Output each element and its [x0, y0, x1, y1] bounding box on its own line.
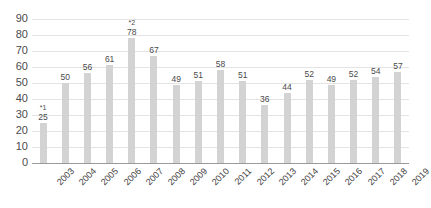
x-axis-tick-label: 2014: [299, 166, 320, 187]
y-axis-tick-label: 10: [2, 140, 28, 152]
x-axis-tick-label: 2019: [410, 166, 431, 187]
bar-footnote-marker: *2: [121, 19, 143, 26]
y-axis-tick-label: 30: [2, 108, 28, 120]
x-axis-tick-label: 2013: [277, 166, 298, 187]
bar-value-label: 58: [210, 59, 232, 69]
bar: [128, 38, 135, 163]
x-axis-line: [32, 163, 409, 164]
bar-value-label: 67: [143, 45, 165, 55]
x-axis-tick-label: 2010: [210, 166, 231, 187]
x-axis-tick-label: 2003: [55, 166, 76, 187]
x-axis-tick-label: 2016: [343, 166, 364, 187]
bar-value-label: 36: [254, 94, 276, 104]
bar: [350, 80, 357, 163]
bar: [394, 72, 401, 163]
bar: [217, 70, 224, 163]
bar-value-label: 50: [54, 72, 76, 82]
y-axis-tick-label: 20: [2, 124, 28, 136]
bar: [239, 81, 246, 163]
bar-value-label: 57: [387, 61, 409, 71]
bar: [306, 80, 313, 163]
y-axis-tick-label: 90: [2, 12, 28, 24]
y-axis-tick-label: 60: [2, 60, 28, 72]
y-axis-tick-label: 50: [2, 76, 28, 88]
bar-value-label: 49: [320, 74, 342, 84]
x-axis-tick-label: 2004: [77, 166, 98, 187]
x-axis-tick-label: 2012: [255, 166, 276, 187]
bar-value-label: 25: [32, 112, 54, 122]
bar: [40, 123, 47, 163]
x-axis-tick-label: 2009: [188, 166, 209, 187]
x-axis-tick-label: 2018: [388, 166, 409, 187]
bar-value-label: 49: [165, 74, 187, 84]
bar-value-label: 44: [276, 82, 298, 92]
bar-value-label: 61: [99, 54, 121, 64]
gridline: [32, 35, 409, 36]
bar-value-label: 56: [76, 62, 98, 72]
bar: [173, 85, 180, 163]
bar: [328, 85, 335, 163]
y-axis-tick-label: 40: [2, 92, 28, 104]
bar-value-label: 52: [298, 69, 320, 79]
y-axis-tick-label: 0: [2, 156, 28, 168]
bar: [106, 65, 113, 163]
bar: [195, 81, 202, 163]
bar: [84, 73, 91, 163]
bar: [372, 77, 379, 163]
bar: [150, 56, 157, 163]
bar: [261, 105, 268, 163]
y-axis-tick-label: 80: [2, 28, 28, 40]
bar-value-label: 78: [121, 27, 143, 37]
x-axis-tick-label: 2011: [232, 166, 253, 187]
x-axis-tick-label: 2005: [99, 166, 120, 187]
x-axis-tick-label: 2007: [144, 166, 165, 187]
bar-footnote-marker: *1: [32, 104, 54, 111]
bar-value-label: 52: [343, 69, 365, 79]
x-axis-tick-label: 2008: [166, 166, 187, 187]
plot-area: 0102030405060708090 25*150566178*2674951…: [32, 19, 409, 163]
x-axis-tick-label: 2006: [121, 166, 142, 187]
gridline: [32, 19, 409, 20]
bar-value-label: 54: [365, 66, 387, 76]
bar: [62, 83, 69, 163]
x-axis-tick-label: 2017: [365, 166, 386, 187]
y-axis-tick-label: 70: [2, 44, 28, 56]
bar-value-label: 51: [187, 70, 209, 80]
bar: [284, 93, 291, 163]
gridline: [32, 51, 409, 52]
bar-value-label: 51: [232, 70, 254, 80]
x-axis-tick-label: 2015: [321, 166, 342, 187]
